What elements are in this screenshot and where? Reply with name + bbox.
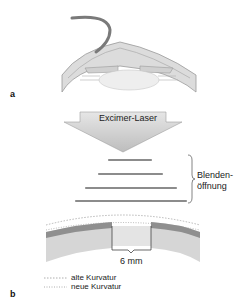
- cornea-ablation: [46, 215, 200, 262]
- legend-new-label: neue Kurvatur: [71, 282, 121, 291]
- panel-a-letter: a: [10, 89, 15, 99]
- legend-lines: [44, 278, 67, 287]
- aperture-label-line1: Blenden-: [197, 170, 233, 181]
- aperture-label-line2: öffnung: [197, 181, 233, 192]
- aperture-bars: [76, 155, 195, 203]
- brace-icon: [188, 155, 195, 203]
- measure-label: 6 mm: [120, 256, 143, 266]
- aperture-label: Blenden- öffnung: [197, 170, 233, 192]
- panel-b-letter: b: [10, 289, 16, 299]
- eye-cross-section: [62, 17, 196, 92]
- laser-label: Excimer-Laser: [99, 113, 157, 123]
- legend-old-label: alte Kurvatur: [71, 273, 116, 282]
